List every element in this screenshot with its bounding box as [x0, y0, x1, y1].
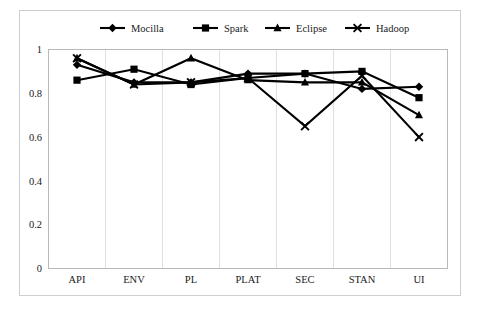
y-tick-label: 0.4: [29, 176, 43, 187]
chart-background: [0, 0, 480, 312]
marker-square: [73, 77, 80, 84]
marker-square: [202, 24, 209, 31]
x-tick-label: PL: [185, 274, 197, 285]
x-tick-label: SEC: [295, 274, 314, 285]
legend-label: Spark: [224, 23, 249, 34]
marker-square: [301, 70, 308, 77]
x-tick-label: STAN: [349, 274, 376, 285]
legend-label: Mocilla: [131, 23, 164, 34]
legend-label: Eclipse: [296, 23, 327, 34]
legend-label: Hadoop: [376, 23, 409, 34]
y-tick-label: 0.2: [29, 219, 42, 230]
y-tick-label: 0.6: [29, 132, 42, 143]
y-tick-label: 1: [37, 44, 42, 55]
chart-figure: MocillaSparkEclipseHadoop 00.20.40.60.81…: [0, 0, 480, 312]
marker-square: [130, 66, 137, 73]
x-tick-label: PLAT: [235, 274, 261, 285]
x-tick-label: UI: [413, 274, 425, 285]
legend-item-hadoop[interactable]: Hadoop: [345, 23, 409, 34]
line-chart: MocillaSparkEclipseHadoop 00.20.40.60.81…: [0, 0, 480, 312]
y-tick-label: 0: [37, 263, 42, 274]
x-tick-label: API: [69, 274, 86, 285]
marker-square: [415, 94, 422, 101]
x-tick-label: ENV: [123, 274, 145, 285]
y-tick-label: 0.8: [29, 88, 42, 99]
